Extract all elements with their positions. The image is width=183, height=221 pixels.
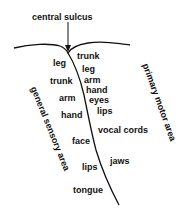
diagram-title: central sulcus [32,12,93,22]
sensory-label-trunk: trunk [50,76,73,86]
motor-label-trunk: trunk [77,51,100,61]
sensory-label-leg: leg [53,58,66,68]
motor-label-arm: arm [84,75,101,85]
sensory-label-tongue: tongue [73,185,103,195]
central-sulcus-diagram: central sulcus leg trunk arm hand face l… [0,0,183,221]
motor-label-vocal-cords: vocal cords [98,125,148,135]
sensory-label-lips: lips [82,162,98,172]
motor-label-eyes: eyes [89,95,109,105]
motor-label-jaws: jaws [110,156,130,166]
motor-label-lips: lips [97,106,113,116]
motor-label-leg: leg [82,64,95,74]
motor-label-hand: hand [86,85,108,95]
sensory-label-hand: hand [61,110,83,120]
sensory-label-arm: arm [59,93,76,103]
sensory-label-face: face [72,136,90,146]
cortex-surface-line [14,42,130,53]
